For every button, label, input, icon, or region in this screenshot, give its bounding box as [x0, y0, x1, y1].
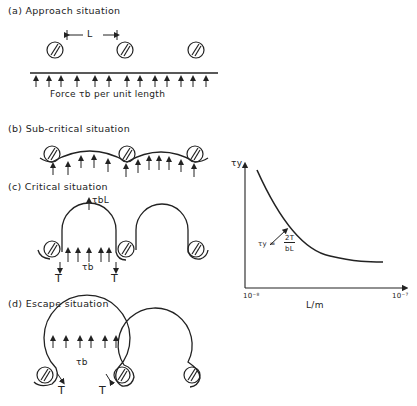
x-axis-label: L/m — [306, 300, 324, 310]
panel-c-critical — [38, 200, 208, 271]
obstacle-icon — [118, 241, 134, 257]
spacing-label: L — [87, 28, 93, 39]
force-label: Force τb per unit length — [50, 89, 165, 99]
panel-b-title: (b) Sub-critical situation — [8, 123, 130, 134]
tension-left-label: T — [58, 384, 65, 397]
panel-d-title: (d) Escape situation — [8, 298, 109, 309]
tau-b-label: τb — [82, 262, 94, 272]
frank-read-diagram — [0, 0, 417, 406]
tension-left-label: T — [55, 272, 62, 285]
force-arrows — [68, 250, 109, 262]
tension-right-label: T — [111, 272, 118, 285]
tau-vs-L-graph — [245, 165, 405, 288]
obstacle-icon — [188, 42, 204, 58]
equation-lhs: τy = — [258, 240, 276, 248]
tension-right-label: T — [99, 384, 106, 397]
force-arrows — [53, 338, 116, 348]
force-arrows — [36, 78, 206, 87]
obstacle-icon — [37, 367, 53, 383]
equation-numerator: 2T — [284, 234, 295, 243]
panel-a-title: (a) Approach situation — [8, 5, 120, 16]
y-axis-label: τy — [231, 158, 242, 168]
tau-bL-label: τbL — [92, 195, 109, 205]
obstacle-icon — [184, 367, 200, 383]
tau-curve — [257, 170, 383, 262]
x-tick-max: 10⁻⁷ — [392, 292, 409, 300]
obstacle-icon — [47, 42, 63, 58]
tau-b-label: τb — [76, 357, 88, 367]
x-tick-min: 10⁻⁸ — [243, 292, 260, 300]
obstacle-icon — [117, 42, 133, 58]
equation-denominator: bL — [284, 245, 295, 253]
panel-c-title: (c) Critical situation — [8, 181, 108, 192]
panel-a-approach — [30, 30, 218, 87]
panel-b-subcritical — [40, 146, 208, 177]
obstacle-icon — [44, 241, 60, 257]
